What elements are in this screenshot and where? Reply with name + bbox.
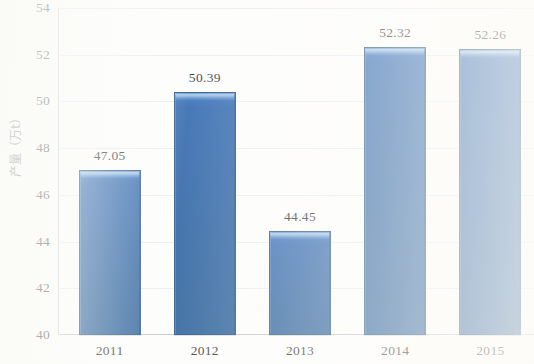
chart-figure: 产量（万t） 5452504846444240 47.0550.3944.455… [0,0,534,364]
y-axis-tick-label: 54 [16,0,50,16]
x-axis-tick-label: 2012 [191,343,219,359]
x-axis-tick-label: 2015 [476,343,504,359]
x-axis-tick-label: 2013 [286,343,314,359]
y-axis-tick-label: 42 [16,280,50,296]
x-axis-tick-label: 2011 [96,343,124,359]
y-axis-tick-label: 44 [16,234,50,250]
x-axis-tick-label: 2014 [381,343,409,359]
y-axis-tick-label: 40 [16,327,50,343]
y-axis-tick-label: 52 [16,47,50,63]
y-axis-tick-labels: 5452504846444240 [0,0,50,364]
y-axis-tick-label: 48 [16,140,50,156]
y-axis-tick-label: 46 [16,187,50,203]
x-axis-tick-labels: 20112012201320142015 [58,0,534,364]
y-axis-tick-label: 50 [16,93,50,109]
